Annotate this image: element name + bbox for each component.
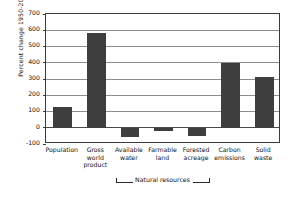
y-axis-tick: [43, 95, 46, 96]
gridline: [46, 30, 279, 31]
y-axis-tick-labels: 7006005004003002001000-100: [14, 0, 40, 198]
gridline: [46, 79, 279, 80]
y-axis-tick-label: 600: [14, 26, 40, 32]
x-axis-category-label: Solidwaste: [241, 146, 285, 161]
y-axis-tick-label: 200: [14, 91, 40, 97]
x-axis-category-label-line: product: [74, 161, 118, 169]
x-axis-category-label-line: Solid: [241, 146, 285, 154]
bar-chart: Percent change 1950-2000 700600500400300…: [0, 0, 288, 198]
y-axis-tick: [43, 111, 46, 112]
bar: [188, 128, 207, 136]
y-axis-tick: [43, 144, 46, 145]
y-axis-tick: [43, 30, 46, 31]
bar: [87, 33, 106, 128]
gridline: [46, 46, 279, 47]
x-axis-category-labels: PopulationGrossworldproductAvailablewate…: [45, 146, 280, 176]
y-axis-tick: [43, 14, 46, 15]
x-axis-category-label-line: waste: [241, 154, 285, 162]
y-axis-tick-label: -100: [14, 140, 40, 146]
bar: [221, 63, 240, 128]
plot-area: [45, 13, 280, 143]
y-axis-tick-label: 500: [14, 42, 40, 48]
y-axis-tick-label: 300: [14, 75, 40, 81]
y-axis-tick: [43, 79, 46, 80]
gridline: [46, 95, 279, 96]
y-axis-tick-label: 100: [14, 107, 40, 113]
y-axis-tick-label: 0: [14, 124, 40, 130]
bar: [53, 107, 72, 128]
gridline: [46, 111, 279, 112]
natural-resources-bracket-label: Natural resources: [133, 176, 193, 183]
y-axis-tick: [43, 46, 46, 47]
bar: [154, 128, 173, 131]
y-axis-tick-label: 700: [14, 10, 40, 16]
bar: [255, 77, 274, 127]
gridline: [46, 62, 279, 63]
y-axis-tick: [43, 62, 46, 63]
bar: [121, 128, 140, 137]
y-axis-tick: [43, 127, 46, 128]
y-axis-tick-label: 400: [14, 59, 40, 65]
